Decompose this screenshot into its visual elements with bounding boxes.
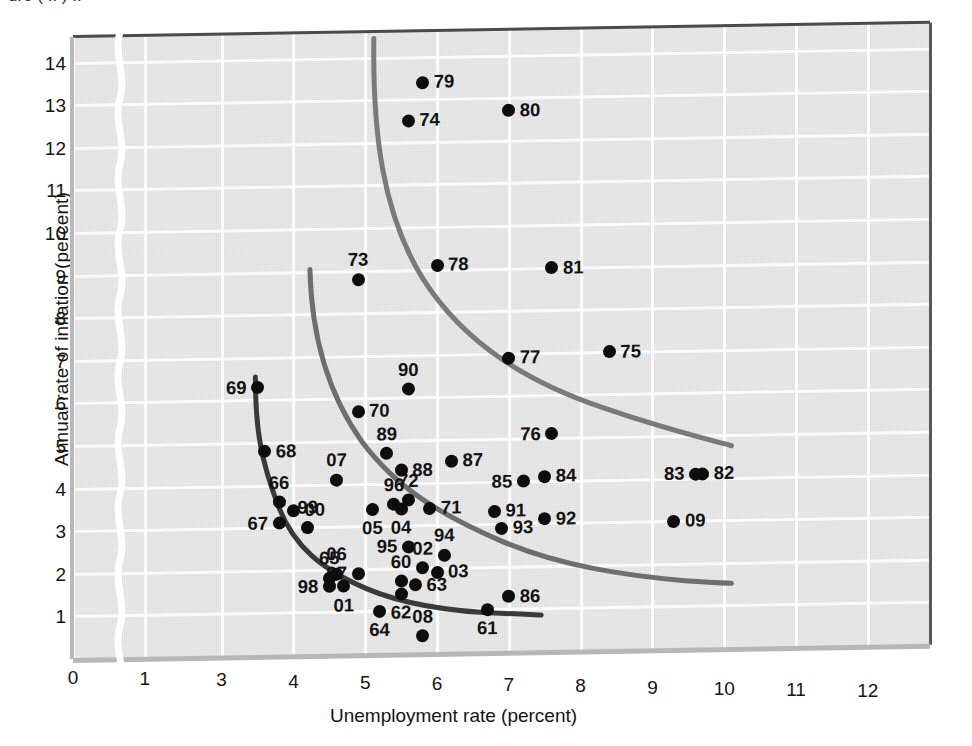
x-tick-9: 9 xyxy=(632,678,672,697)
data-point-78 xyxy=(431,259,444,272)
x-tick-1: 1 xyxy=(125,669,165,688)
data-point-74 xyxy=(402,114,415,127)
data-label-92: 92 xyxy=(556,509,577,528)
y-tick-3: 3 xyxy=(26,522,66,541)
x-tick-0: 0 xyxy=(53,668,93,687)
data-label-62: 62 xyxy=(391,604,412,623)
y-tick-14: 14 xyxy=(26,54,66,73)
data-point-05 xyxy=(366,503,379,516)
y-tick-11: 11 xyxy=(26,181,66,200)
data-label-09: 09 xyxy=(685,511,706,530)
x-tick-12: 12 xyxy=(848,681,888,700)
data-point-79 xyxy=(416,76,429,89)
data-label-90: 90 xyxy=(398,361,419,380)
data-label-82: 82 xyxy=(714,464,735,483)
data-point-70 xyxy=(352,405,365,418)
data-point-07 xyxy=(330,473,343,486)
data-point-66 xyxy=(273,496,286,509)
x-axis-tick-labels: 013456789101112 xyxy=(0,668,972,698)
data-label-06: 06 xyxy=(326,545,347,564)
data-point-77 xyxy=(502,351,515,364)
data-point-94 xyxy=(438,548,451,561)
y-tick-13: 13 xyxy=(26,96,66,115)
data-label-61: 61 xyxy=(477,619,498,638)
y-axis-tick-labels: 1234567891011121314 xyxy=(16,0,66,746)
data-point-87 xyxy=(445,454,458,467)
data-point-62 xyxy=(395,587,408,600)
data-label-83: 83 xyxy=(664,465,685,484)
y-tick-1: 1 xyxy=(26,607,66,626)
data-point-60 xyxy=(395,575,408,588)
plot-area: 6061626364656667686970717273747576777879… xyxy=(73,37,930,659)
plot-frame-left xyxy=(70,37,74,659)
data-label-04: 04 xyxy=(391,519,412,538)
data-point-97 xyxy=(352,567,365,580)
x-tick-4: 4 xyxy=(273,672,313,691)
y-tick-9: 9 xyxy=(26,267,66,286)
plot-frame-right xyxy=(929,23,932,645)
data-label-78: 78 xyxy=(448,256,469,275)
data-label-75: 75 xyxy=(620,342,641,361)
data-label-93: 93 xyxy=(513,519,534,538)
data-label-80: 80 xyxy=(520,101,541,120)
data-label-70: 70 xyxy=(369,402,390,421)
data-label-03: 03 xyxy=(448,562,469,581)
x-tick-5: 5 xyxy=(345,673,385,692)
data-label-07: 07 xyxy=(326,451,347,470)
data-label-69: 69 xyxy=(226,378,247,397)
data-label-01: 01 xyxy=(333,596,354,615)
data-label-67: 67 xyxy=(247,514,268,533)
data-label-68: 68 xyxy=(276,442,297,461)
data-label-71: 71 xyxy=(441,498,462,517)
data-label-94: 94 xyxy=(434,526,455,545)
data-label-02: 02 xyxy=(412,539,433,558)
data-label-74: 74 xyxy=(419,111,440,130)
x-tick-10: 10 xyxy=(704,679,744,698)
data-label-84: 84 xyxy=(556,467,577,486)
data-label-95: 95 xyxy=(377,538,398,557)
y-tick-4: 4 xyxy=(26,480,66,499)
data-point-04 xyxy=(395,502,408,515)
data-label-98: 98 xyxy=(298,578,319,597)
y-tick-6: 6 xyxy=(26,394,66,413)
data-point-61 xyxy=(481,603,494,616)
x-axis-title: Unemployment rate (percent) xyxy=(330,705,577,727)
phillips-curve-figure: ure ( .. ) .. Annual rate of inflation (… xyxy=(0,0,972,746)
data-point-85 xyxy=(517,475,530,488)
y-tick-10: 10 xyxy=(26,224,66,243)
data-point-73 xyxy=(352,273,365,286)
y-tick-12: 12 xyxy=(26,139,66,158)
data-point-06 xyxy=(330,567,343,580)
data-label-64: 64 xyxy=(369,621,390,640)
x-tick-11: 11 xyxy=(776,680,816,699)
data-label-00: 00 xyxy=(304,501,325,520)
data-label-79: 79 xyxy=(434,73,455,92)
data-point-83 xyxy=(689,467,702,480)
data-label-87: 87 xyxy=(462,451,483,470)
data-label-08: 08 xyxy=(412,607,433,626)
data-label-66: 66 xyxy=(269,474,290,493)
data-label-05: 05 xyxy=(362,519,383,538)
x-tick-3: 3 xyxy=(202,670,242,689)
data-label-86: 86 xyxy=(520,587,541,606)
data-point-00 xyxy=(287,504,300,517)
partial-top-caption: ure ( .. ) .. xyxy=(0,0,972,8)
y-tick-2: 2 xyxy=(26,565,66,584)
x-tick-8: 8 xyxy=(561,676,601,695)
data-label-89: 89 xyxy=(376,425,397,444)
x-tick-7: 7 xyxy=(489,675,529,694)
y-tick-8: 8 xyxy=(26,309,66,328)
y-tick-5: 5 xyxy=(26,437,66,456)
y-tick-7: 7 xyxy=(26,352,66,371)
x-tick-6: 6 xyxy=(417,674,457,693)
data-point-91 xyxy=(488,505,501,518)
data-point-03 xyxy=(431,565,444,578)
phillips-curves xyxy=(73,23,930,659)
phillips-curve-1980s xyxy=(374,32,732,451)
data-label-76: 76 xyxy=(520,425,541,444)
data-label-96: 96 xyxy=(384,476,405,495)
data-label-77: 77 xyxy=(520,348,541,367)
data-label-85: 85 xyxy=(492,472,513,491)
data-label-88: 88 xyxy=(412,461,433,480)
data-label-73: 73 xyxy=(348,251,369,270)
